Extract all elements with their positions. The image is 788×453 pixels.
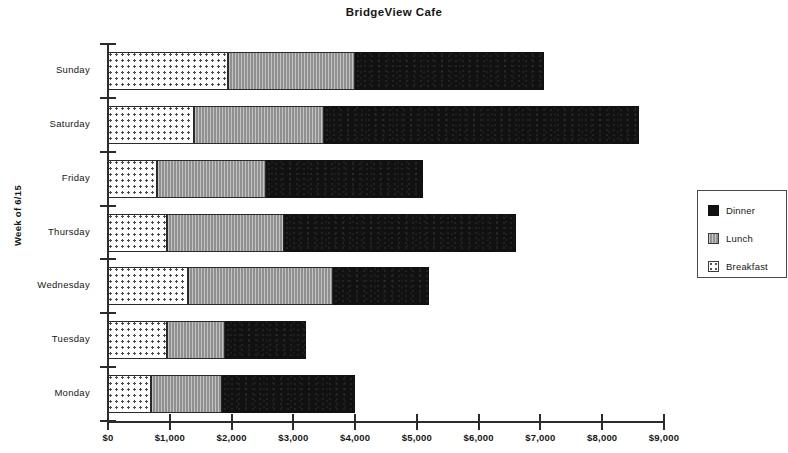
bar-segment-breakfast[interactable] (108, 160, 157, 198)
y-axis-title: Week of 6/15 (12, 171, 23, 261)
bar-segment-lunch[interactable] (167, 321, 226, 359)
bar-segment-dinner[interactable] (324, 106, 639, 144)
y-axis-category-label: Saturday (50, 118, 90, 129)
bar-segment-dinner[interactable] (225, 321, 305, 359)
x-axis-tick-label: $7,000 (525, 432, 555, 443)
legend-label-lunch: Lunch (726, 233, 753, 244)
bar-segment-dinner[interactable] (284, 214, 516, 252)
bar-chart: BridgeView Cafe Week of 6/15 $0$1,000$2,… (0, 0, 788, 453)
bar-segment-breakfast[interactable] (108, 267, 188, 305)
bar-segment-lunch[interactable] (188, 267, 333, 305)
y-axis-category-label: Thursday (48, 226, 90, 237)
x-axis-tick-label: $6,000 (464, 432, 494, 443)
y-axis-category-label: Friday (62, 172, 90, 183)
bar-row (108, 267, 664, 305)
y-axis-tick (100, 43, 116, 45)
bar-row (108, 52, 664, 90)
y-axis-tick (100, 97, 116, 99)
legend-swatch-dinner-icon (708, 205, 719, 216)
legend: Dinner Lunch Breakfast (697, 190, 787, 278)
x-axis-tick (478, 414, 480, 430)
y-axis-tick (100, 258, 116, 260)
bar-row (108, 160, 664, 198)
x-axis-tick (663, 414, 665, 430)
x-axis-tick (292, 414, 294, 430)
bar-row (108, 321, 664, 359)
x-axis-tick-label: $5,000 (402, 432, 432, 443)
y-axis-tick (100, 312, 116, 314)
bar-row (108, 106, 664, 144)
legend-item-lunch[interactable]: Lunch (708, 231, 753, 245)
bar-segment-lunch[interactable] (157, 160, 265, 198)
legend-swatch-breakfast-icon (708, 261, 719, 272)
bar-segment-lunch[interactable] (167, 214, 284, 252)
bar-segment-breakfast[interactable] (108, 375, 151, 413)
y-axis-category-label: Wednesday (37, 279, 90, 290)
x-axis-tick (539, 414, 541, 430)
x-axis-tick-label: $9,000 (649, 432, 679, 443)
x-axis-tick (354, 414, 356, 430)
y-axis-tick (100, 366, 116, 368)
bar-segment-lunch[interactable] (194, 106, 324, 144)
x-axis-tick (231, 414, 233, 430)
bar-row (108, 375, 664, 413)
bar-segment-dinner[interactable] (355, 52, 543, 90)
y-axis-category-label: Tuesday (52, 333, 90, 344)
x-axis-line (107, 421, 664, 423)
bar-segment-breakfast[interactable] (108, 321, 167, 359)
legend-label-dinner: Dinner (726, 205, 755, 216)
x-axis-tick-label: $4,000 (340, 432, 370, 443)
x-axis-tick (169, 414, 171, 430)
x-axis-tick (416, 414, 418, 430)
legend-swatch-lunch-icon (708, 233, 719, 244)
x-axis-tick-label: $8,000 (587, 432, 617, 443)
y-axis-category-label: Monday (54, 387, 90, 398)
bar-row (108, 214, 664, 252)
y-axis-tick (100, 420, 116, 422)
legend-item-dinner[interactable]: Dinner (708, 203, 755, 217)
bar-segment-dinner[interactable] (333, 267, 429, 305)
x-axis-tick-label: $2,000 (216, 432, 246, 443)
bar-segment-lunch[interactable] (151, 375, 222, 413)
legend-label-breakfast: Breakfast (726, 261, 768, 272)
bar-segment-breakfast[interactable] (108, 52, 228, 90)
bar-segment-dinner[interactable] (222, 375, 355, 413)
chart-title: BridgeView Cafe (0, 6, 788, 18)
legend-item-breakfast[interactable]: Breakfast (708, 259, 768, 273)
y-axis-category-label: Sunday (56, 64, 90, 75)
x-axis-tick (107, 414, 109, 430)
bar-segment-lunch[interactable] (228, 52, 355, 90)
x-axis-tick-label: $3,000 (278, 432, 308, 443)
bar-segment-dinner[interactable] (266, 160, 424, 198)
bar-segment-breakfast[interactable] (108, 214, 167, 252)
x-axis-tick-label: $1,000 (155, 432, 185, 443)
x-axis-tick (601, 414, 603, 430)
x-axis-tick-label: $0 (103, 432, 114, 443)
y-axis-tick (100, 205, 116, 207)
bar-segment-breakfast[interactable] (108, 106, 194, 144)
y-axis-tick (100, 151, 116, 153)
